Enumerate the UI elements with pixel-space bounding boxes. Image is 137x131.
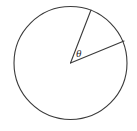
geometry-canvas <box>0 0 137 131</box>
circle-angle-diagram: θ <box>0 0 137 131</box>
theta-angle-label: θ <box>76 48 81 59</box>
